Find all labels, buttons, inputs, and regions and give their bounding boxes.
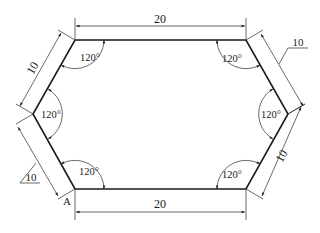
bottom-dimension: 20 <box>75 190 246 220</box>
hexagon-outline <box>33 40 288 189</box>
upper-right-side-dimension: 10 <box>246 30 308 114</box>
upper-left-side-dimension: 10 <box>16 30 75 114</box>
angle-left-label: 120° <box>41 109 61 120</box>
angle-bottom-right-label: 120° <box>222 169 242 180</box>
upper-left-side-label: 10 <box>23 59 41 76</box>
angle-top-left-label: 120° <box>80 52 100 63</box>
lower-left-side-dimension: 10 <box>16 114 75 199</box>
angle-bottom-left-label: 120° <box>79 166 99 177</box>
angle-right-label: 120° <box>261 109 281 120</box>
lower-left-leader-label: 10 <box>26 171 38 183</box>
vertex-label-a: A <box>63 195 71 207</box>
top-dimension-label: 20 <box>154 12 166 26</box>
angle-top-right-label: 120° <box>222 53 242 64</box>
upper-right-leader-label: 10 <box>293 36 305 48</box>
top-dimension: 20 <box>75 12 246 39</box>
bottom-dimension-label: 20 <box>154 197 166 211</box>
hexagon-drawing: 20 20 10 10 10 10 <box>0 0 320 233</box>
lower-right-side-label: 10 <box>272 147 290 164</box>
angle-left: 120° <box>41 89 62 139</box>
